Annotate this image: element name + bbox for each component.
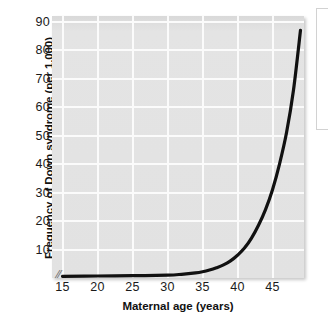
y-axis-tick-labels: 102030405060708090 (18, 16, 50, 278)
y-tick-label: 90 (18, 15, 50, 29)
y-tick-label: 50 (18, 129, 50, 143)
curve-path-down-syndrome (63, 30, 301, 276)
y-tick-label: 10 (18, 243, 50, 257)
x-tick-label: 40 (221, 280, 255, 294)
y-tick-label: 70 (18, 72, 50, 86)
x-tick-label: 15 (46, 280, 80, 294)
y-tick-label: 80 (18, 43, 50, 57)
x-axis-tick-labels: 15202530354045 (52, 280, 304, 298)
y-tick-label: 20 (18, 214, 50, 228)
x-axis-title: Maternal age (years) (52, 300, 304, 312)
data-curve (52, 16, 304, 278)
plot-area (52, 16, 304, 278)
y-tick-label: 40 (18, 157, 50, 171)
x-tick-label: 25 (116, 280, 150, 294)
x-tick-label: 35 (186, 280, 220, 294)
y-tick-label: 60 (18, 100, 50, 114)
x-tick-label: 30 (151, 280, 185, 294)
adjacent-panel-sliver (316, 8, 328, 130)
y-tick-label: 30 (18, 186, 50, 200)
x-tick-label: 20 (81, 280, 115, 294)
x-tick-label: 45 (256, 280, 290, 294)
